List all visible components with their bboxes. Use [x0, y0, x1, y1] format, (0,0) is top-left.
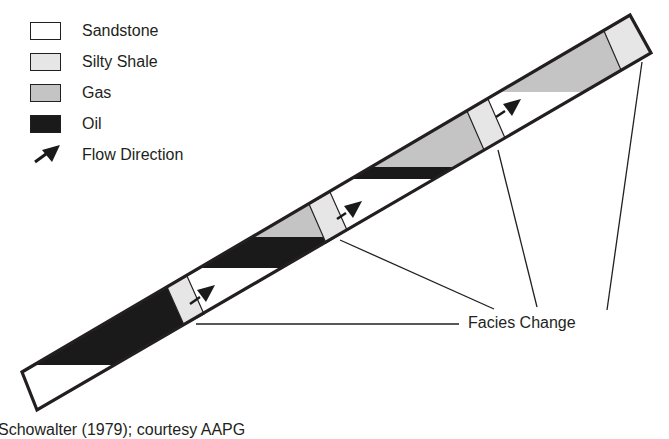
segment-4 — [0, 0, 669, 92]
facies-change-label: Facies Change — [468, 314, 576, 332]
source-credit: Schowalter (1979); courtesy AAPG — [0, 421, 245, 439]
oil-zone — [0, 237, 669, 268]
oil-zone — [0, 167, 669, 179]
facies-change-leaders — [196, 62, 642, 324]
gas-zone — [0, 0, 669, 92]
